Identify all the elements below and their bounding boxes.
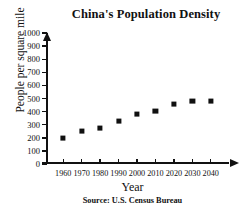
data-point: [190, 99, 195, 104]
x-tick-mark: [155, 159, 156, 164]
data-point: [208, 99, 213, 104]
data-point: [116, 118, 121, 123]
x-tick-mark: [99, 159, 100, 164]
y-tick-label: 400: [27, 107, 40, 116]
source-caption: Source: U.S. Census Bureau: [30, 196, 235, 205]
y-tick-label: 100: [27, 147, 40, 156]
x-tick-label: 2000: [129, 170, 145, 178]
y-tick-mark: [42, 85, 47, 86]
data-point: [171, 102, 176, 107]
y-tick-mark: [42, 72, 47, 73]
x-tick-mark: [118, 159, 119, 164]
y-tick-label: 0: [36, 160, 40, 169]
x-tick-mark: [210, 159, 211, 164]
data-point: [134, 112, 139, 117]
y-tick-mark: [42, 150, 47, 151]
x-tick-label: 1990: [110, 170, 126, 178]
y-tick-mark: [42, 32, 47, 33]
y-tick-label: 700: [27, 68, 40, 77]
data-point: [98, 125, 103, 130]
y-tick-mark: [42, 124, 47, 125]
x-tick-mark: [63, 159, 64, 164]
y-tick-label: 1000: [23, 29, 40, 38]
data-point: [153, 108, 158, 113]
x-axis-title: Year: [40, 180, 225, 195]
data-point: [79, 129, 84, 134]
x-tick-label: 2010: [147, 170, 163, 178]
y-tick-label: 200: [27, 134, 40, 143]
x-tick-label: 2030: [184, 170, 200, 178]
y-tick-mark: [42, 111, 47, 112]
y-tick-label: 500: [27, 94, 40, 103]
y-tick-mark: [42, 59, 47, 60]
x-tick-label: 1980: [92, 170, 108, 178]
chart-title: China's Population Density: [46, 7, 246, 22]
y-tick-mark: [42, 45, 47, 46]
x-tick-mark: [136, 159, 137, 164]
y-tick-label: 600: [27, 81, 40, 90]
y-tick-label: 900: [27, 42, 40, 51]
x-tick-label: 2020: [166, 170, 182, 178]
y-tick-label: 800: [27, 55, 40, 64]
y-tick-mark: [42, 163, 47, 164]
x-tick-label: 1970: [73, 170, 89, 178]
x-tick-label: 2040: [203, 170, 219, 178]
y-tick-label: 300: [27, 120, 40, 129]
chart-figure: China's Population Density People per sq…: [0, 0, 249, 212]
plot-area: 01002003004005006007008009001000 1960197…: [46, 26, 226, 164]
y-axis-title: People per square mile: [14, 0, 26, 125]
x-tick-mark: [81, 159, 82, 164]
data-point: [61, 135, 66, 140]
y-tick-mark: [42, 137, 47, 138]
x-tick-mark: [173, 159, 174, 164]
y-tick-mark: [42, 98, 47, 99]
x-axis-arrow-icon: [230, 159, 239, 167]
x-tick-label: 1960: [55, 170, 71, 178]
x-tick-mark: [192, 159, 193, 164]
